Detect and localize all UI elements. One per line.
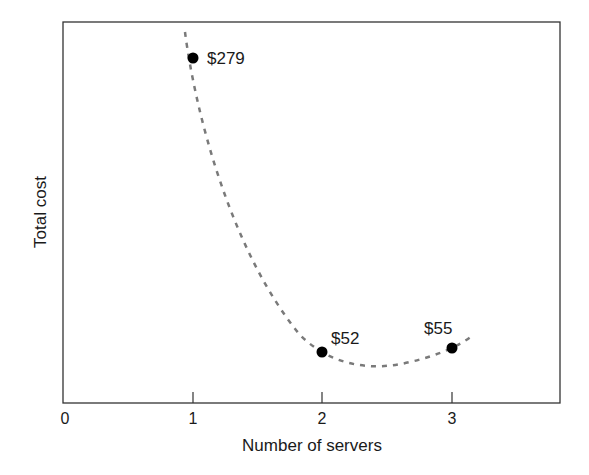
x-ticks [193, 392, 452, 403]
label-55: $55 [424, 319, 452, 338]
x-tick-0: 0 [61, 410, 70, 427]
fitted-curve [185, 32, 472, 366]
chart: 0 1 2 3 Number of servers Total cost $27… [0, 0, 589, 475]
x-tick-2: 2 [318, 410, 327, 427]
y-axis-label: Total cost [31, 176, 50, 248]
point-3-servers [447, 343, 458, 354]
point-1-server [188, 53, 199, 64]
x-axis-label: Number of servers [242, 436, 382, 455]
label-52: $52 [331, 329, 359, 348]
point-2-servers [317, 347, 328, 358]
label-279: $279 [207, 49, 245, 68]
x-tick-1: 1 [189, 410, 198, 427]
x-tick-3: 3 [448, 410, 457, 427]
x-tick-labels: 0 1 2 3 [61, 410, 457, 427]
